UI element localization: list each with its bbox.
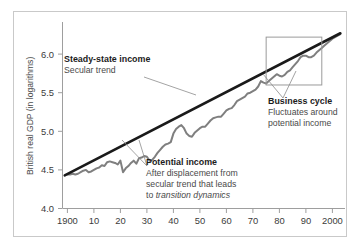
x-tick-label: 40 bbox=[168, 215, 178, 226]
y-tick-label: 4.0 bbox=[41, 203, 54, 214]
annotation-potential-income-title: Potential income bbox=[146, 157, 217, 167]
x-tick-label: 1900 bbox=[57, 215, 78, 226]
leader-line-steady-state bbox=[144, 77, 196, 95]
annotation-potential-income: Potential income After displacement from… bbox=[146, 157, 238, 200]
annotation-business-cycle-line-1: Fluctuates around bbox=[268, 107, 338, 117]
x-tick-label: 2000 bbox=[322, 215, 343, 226]
annotation-potential-income-line-2: secular trend that leads bbox=[146, 179, 237, 189]
x-tick-label: 50 bbox=[195, 215, 205, 226]
y-tick-label: 4.5 bbox=[41, 164, 54, 175]
x-tick-label: 70 bbox=[248, 215, 258, 226]
annotation-business-cycle-title: Business cycle bbox=[268, 96, 332, 106]
x-tick-label: 10 bbox=[89, 215, 99, 226]
annotation-steady-state-title: Steady-state income bbox=[64, 54, 150, 64]
y-tick-label: 5.5 bbox=[41, 87, 54, 98]
annotation-steady-state: Steady-state income Secular trend bbox=[64, 54, 150, 75]
business-cycle-highlight-box bbox=[266, 37, 322, 85]
y-axis-label: British real GDP (in logarithms) bbox=[25, 57, 35, 175]
chart-svg: British real GDP (in logarithms) 6.0 5.5… bbox=[0, 0, 363, 250]
x-tick-label: 80 bbox=[274, 215, 284, 226]
x-tick-label: 30 bbox=[142, 215, 152, 226]
annotation-steady-state-line-1: Secular trend bbox=[64, 65, 116, 75]
y-tick-label: 5.0 bbox=[41, 126, 54, 137]
annotation-potential-income-line-3-prefix: to bbox=[146, 190, 156, 200]
x-tick-group: 1900 10 20 30 40 50 60 70 80 90 2000 bbox=[57, 209, 343, 227]
x-tick-label: 60 bbox=[221, 215, 231, 226]
annotation-potential-income-line-3-italic: transition dynamics bbox=[156, 190, 231, 200]
figure-container: British real GDP (in logarithms) 6.0 5.5… bbox=[0, 0, 363, 250]
annotation-business-cycle-line-2: potential income bbox=[268, 118, 331, 128]
annotation-business-cycle: Business cycle Fluctuates around potenti… bbox=[268, 96, 338, 128]
y-tick-group: 6.0 5.5 5.0 4.5 4.0 bbox=[41, 49, 63, 214]
x-tick-label: 90 bbox=[301, 215, 311, 226]
annotation-potential-income-line-1: After displacement from bbox=[146, 168, 238, 178]
annotation-potential-income-line-3: to transition dynamics bbox=[146, 190, 231, 200]
x-tick-label: 20 bbox=[115, 215, 125, 226]
y-tick-label: 6.0 bbox=[41, 49, 54, 60]
